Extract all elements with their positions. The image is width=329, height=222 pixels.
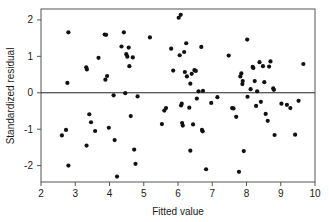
y-axis-title: Standardized residual — [5, 48, 16, 145]
data-point — [160, 122, 164, 126]
data-point — [164, 106, 168, 110]
data-point — [93, 129, 97, 133]
data-point — [169, 47, 173, 51]
data-point — [66, 30, 70, 34]
data-point — [184, 41, 188, 45]
data-point — [104, 33, 108, 37]
data-point — [180, 121, 184, 125]
x-tick-label: 7 — [209, 188, 215, 199]
data-point — [215, 95, 219, 99]
data-point — [179, 13, 183, 17]
data-point — [188, 149, 192, 153]
data-point — [264, 112, 268, 116]
data-point — [84, 143, 88, 147]
data-point — [185, 74, 189, 78]
data-point — [89, 120, 93, 124]
data-point — [191, 122, 195, 126]
data-point — [107, 126, 111, 130]
data-point — [190, 72, 194, 76]
data-point — [288, 106, 292, 110]
x-axis-title: Fitted value — [152, 206, 204, 217]
data-point — [127, 46, 131, 50]
x-tick-label: 5 — [141, 188, 147, 199]
data-point — [182, 50, 186, 54]
data-point — [112, 93, 116, 97]
data-point — [132, 147, 136, 151]
y-tick-label: -2 — [24, 160, 33, 171]
data-point — [245, 37, 249, 41]
data-point — [188, 82, 192, 86]
x-tick-label: 9 — [278, 188, 284, 199]
x-tick-label: 3 — [72, 188, 78, 199]
data-point — [239, 71, 243, 75]
data-point — [261, 64, 265, 68]
data-point — [267, 64, 271, 68]
data-point — [87, 112, 91, 116]
data-point — [180, 102, 184, 106]
data-point — [251, 66, 255, 70]
data-point — [96, 56, 100, 60]
x-tick-label: 4 — [107, 188, 113, 199]
data-point — [64, 128, 68, 132]
data-point — [201, 129, 205, 133]
data-point — [199, 45, 203, 49]
y-tick-label: 1 — [27, 51, 33, 62]
data-point — [255, 89, 259, 93]
data-point — [249, 87, 253, 91]
data-point — [245, 95, 249, 99]
data-point — [122, 30, 126, 34]
data-point — [171, 68, 175, 72]
x-tick-label: 8 — [244, 188, 250, 199]
x-tick-label: 6 — [175, 188, 181, 199]
data-point — [241, 79, 245, 83]
data-point — [259, 100, 263, 104]
data-point — [123, 91, 127, 95]
data-point — [253, 79, 257, 83]
x-tick-label: 10 — [309, 188, 321, 199]
data-point — [194, 69, 198, 73]
data-point — [262, 80, 266, 84]
data-point — [237, 170, 241, 174]
data-point — [127, 64, 131, 68]
residual-scatter-plot-figure: 2345678910 210-1-2 Fitted value Standard… — [0, 0, 329, 222]
data-point — [231, 106, 235, 110]
data-point — [103, 78, 107, 82]
data-point — [65, 81, 69, 85]
data-point — [293, 133, 297, 137]
y-tick-label: -1 — [24, 124, 33, 135]
data-point — [209, 101, 213, 105]
data-point — [296, 99, 300, 103]
data-point — [131, 55, 135, 59]
data-point — [148, 35, 152, 39]
data-point — [178, 53, 182, 57]
data-point — [105, 74, 109, 78]
data-point — [204, 167, 208, 171]
data-point — [272, 133, 276, 137]
data-point — [195, 97, 199, 101]
data-point — [60, 133, 64, 137]
data-point — [115, 174, 119, 178]
data-point — [301, 62, 305, 66]
data-point — [135, 94, 139, 98]
data-point — [196, 89, 200, 93]
x-tick-label: 2 — [38, 188, 44, 199]
data-point — [227, 54, 231, 58]
y-tick-label: 0 — [27, 87, 33, 98]
data-point — [279, 102, 283, 106]
data-point — [268, 59, 272, 63]
data-point — [254, 104, 258, 108]
data-point — [234, 115, 238, 119]
data-point — [242, 149, 246, 153]
data-point — [187, 106, 191, 110]
data-point — [119, 44, 123, 48]
y-tick-label: 2 — [27, 14, 33, 25]
data-point — [133, 162, 137, 166]
data-point — [85, 67, 89, 71]
data-point — [266, 119, 270, 123]
data-point — [285, 103, 289, 107]
data-point — [66, 164, 70, 168]
data-point — [129, 114, 133, 118]
data-point — [113, 138, 117, 142]
data-point — [272, 88, 276, 92]
data-point — [201, 89, 205, 93]
